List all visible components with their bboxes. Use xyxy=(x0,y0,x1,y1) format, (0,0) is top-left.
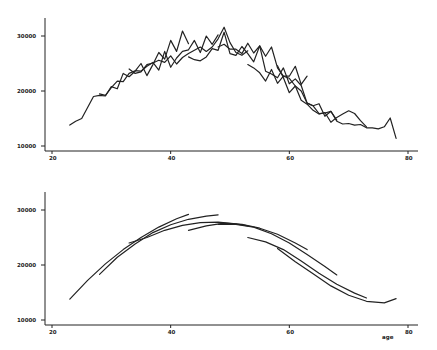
x-tick-label: 20 xyxy=(49,155,57,161)
series-line-fit-4 xyxy=(189,223,308,249)
x-tick-label: 80 xyxy=(405,155,413,161)
y-tick-label: 20000 xyxy=(17,88,36,94)
y-tick-label: 30000 xyxy=(17,33,36,39)
series-line-cohort-4 xyxy=(189,32,308,84)
series-line-fit-6 xyxy=(248,238,367,299)
x-tick-label: 60 xyxy=(286,329,294,335)
x-tick-label: 40 xyxy=(168,155,176,161)
top-panel: 10000200003000020406080 xyxy=(17,18,418,161)
series-line-fit-1 xyxy=(70,214,189,299)
y-tick-label: 10000 xyxy=(17,317,36,323)
series-line-cohort-7 xyxy=(278,66,397,139)
x-axis-label: age xyxy=(382,334,394,341)
x-tick-label: 60 xyxy=(286,155,294,161)
x-tick-label: 80 xyxy=(405,329,413,335)
x-tick-label: 40 xyxy=(168,329,176,335)
y-tick-label: 20000 xyxy=(17,262,36,268)
y-tick-label: 10000 xyxy=(17,143,36,149)
bottom-panel: 10000200003000020406080age xyxy=(17,192,418,341)
series-line-fit-5 xyxy=(218,224,337,275)
chart-canvas: 1000020000300002040608010000200003000020… xyxy=(0,0,437,350)
series-line-fit-3 xyxy=(129,222,248,243)
series-line-fit-2 xyxy=(100,215,219,275)
series-line-cohort-2 xyxy=(100,35,219,96)
series-line-cohort-1 xyxy=(70,31,189,125)
x-tick-label: 20 xyxy=(49,329,57,335)
series-line-cohort-6 xyxy=(248,65,367,127)
chart-figure: 1000020000300002040608010000200003000020… xyxy=(0,0,437,350)
y-tick-label: 30000 xyxy=(17,207,36,213)
